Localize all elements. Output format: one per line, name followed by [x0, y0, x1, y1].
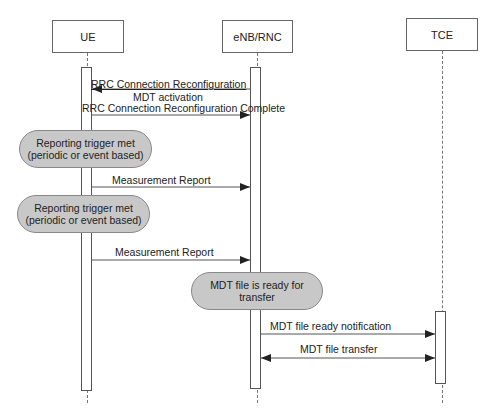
note-line: transfer — [239, 291, 275, 303]
message-label: MDT file transfer — [300, 343, 377, 355]
message-label: MDT file ready notification — [270, 320, 391, 332]
note-line: MDT file is ready for — [210, 279, 304, 291]
message-label: RRC Connection Reconfiguration Complete — [82, 102, 285, 114]
message-label: Measurement Report — [115, 246, 214, 258]
note-reporting-trigger: Reporting trigger met(periodic or event … — [17, 195, 150, 233]
message-label: RRC Connection Reconfiguration — [91, 78, 246, 90]
note-line: (periodic or event based) — [25, 214, 141, 226]
note-line: (periodic or event based) — [27, 149, 143, 161]
note-line: Reporting trigger met — [34, 202, 133, 214]
note-reporting-trigger: Reporting trigger met(periodic or event … — [19, 130, 152, 168]
note-line: Reporting trigger met — [36, 137, 135, 149]
note-mdt-file-ready: MDT file is ready fortransfer — [191, 272, 323, 310]
message-label: Measurement Report — [112, 174, 211, 186]
